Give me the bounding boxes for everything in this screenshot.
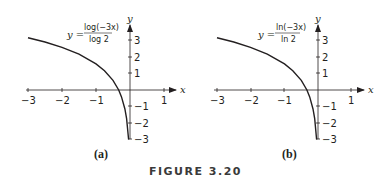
- y-tick-label: −3: [322, 134, 337, 145]
- equation-lhs: y =: [257, 29, 275, 40]
- y-tick-label: 1: [134, 68, 140, 79]
- y-axis-label: y: [314, 13, 321, 24]
- x-tick-label: −1: [277, 95, 292, 106]
- x-tick-label: −3: [21, 95, 36, 106]
- y-tick-label: −2: [322, 118, 337, 129]
- curve-b: [217, 38, 317, 140]
- figure-canvas: −3 −2 −1 1 3 2 1 −1 −2 −3 x y y = log(−3…: [0, 0, 391, 185]
- y-tick-label: −1: [134, 101, 149, 112]
- y-tick-label: 2: [134, 52, 140, 63]
- y-tick-label: −2: [134, 118, 149, 129]
- panel-a-plot: −3 −2 −1 1 3 2 1 −1 −2 −3 x y y = log(−3…: [21, 13, 186, 145]
- panel-a-label: (a): [94, 147, 108, 162]
- y-axis-label: y: [126, 13, 133, 24]
- curve-a: [28, 38, 129, 140]
- x-tick-label: −3: [210, 95, 225, 106]
- y-tick-label: 3: [134, 35, 140, 46]
- equation-numerator: ln(−3x): [276, 23, 306, 32]
- panel-b-plot: −3 −2 −1 1 3 2 1 −1 −2 −3 x y y = ln(−3x…: [210, 13, 374, 145]
- equation-numerator: log(−3x): [84, 23, 119, 32]
- x-tick-label: −1: [89, 95, 104, 106]
- y-tick-label: −3: [134, 134, 149, 145]
- x-tick-label: −2: [244, 95, 259, 106]
- x-axis-label: x: [180, 84, 186, 95]
- equation-denominator: log 2: [89, 35, 109, 44]
- y-tick-label: 3: [322, 35, 328, 46]
- x-tick-label: 1: [348, 95, 354, 106]
- x-tick-label: 1: [161, 95, 167, 106]
- y-tick-label: −1: [322, 101, 337, 112]
- figure-caption: FIGURE 3.20: [0, 165, 391, 178]
- y-tick-label: 2: [322, 52, 328, 63]
- equation-lhs: y =: [66, 29, 84, 40]
- equation-denominator: ln 2: [281, 35, 296, 44]
- x-axis-label: x: [368, 84, 374, 95]
- x-tick-label: −2: [55, 95, 70, 106]
- panel-b-label: (b): [282, 147, 297, 162]
- y-tick-label: 1: [322, 68, 328, 79]
